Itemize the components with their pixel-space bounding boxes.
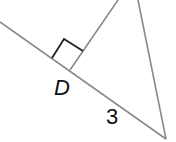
diagram-canvas [0,0,176,142]
altitude-line [70,0,118,70]
segment-length-label: 3 [106,106,118,128]
point-d-label: D [54,77,70,99]
right-side-line [138,0,166,139]
geometry-diagram: D 3 [0,0,176,142]
base-line [0,22,166,139]
right-angle-marker [52,39,83,58]
